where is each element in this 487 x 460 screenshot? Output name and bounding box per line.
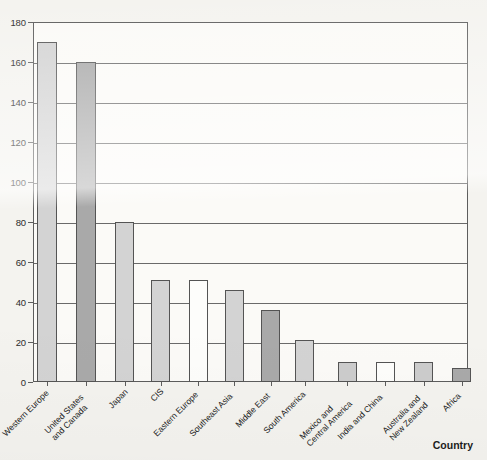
- bar-chart: 020406080100120140160180 Country Western…: [0, 0, 487, 460]
- y-tick-label-20: 20: [16, 337, 26, 348]
- bar: [225, 290, 244, 382]
- bar: [338, 362, 357, 382]
- bar: [414, 362, 433, 382]
- x-tick-3: [161, 382, 162, 386]
- bar: [115, 222, 134, 382]
- bar: [76, 62, 96, 382]
- x-tick-2: [125, 382, 126, 386]
- x-tick-1: [86, 382, 87, 386]
- y-tick-label-140: 140: [10, 97, 26, 108]
- x-tick-5: [234, 382, 235, 386]
- x-tick-8: [347, 382, 348, 386]
- y-tick-label-80: 80: [16, 217, 26, 228]
- bar: [261, 310, 280, 382]
- y-tick-label-180: 180: [10, 17, 26, 28]
- y-axis: 020406080100120140160180: [0, 0, 33, 404]
- bar: [151, 280, 170, 382]
- x-axis: Country Western EuropeUnited Statesand C…: [0, 382, 487, 460]
- x-axis-label: CIS: [149, 387, 166, 404]
- x-axis-label: Western Europe: [1, 389, 51, 439]
- x-axis-title: Country: [433, 439, 473, 451]
- y-tick-label-60: 60: [16, 257, 26, 268]
- bar: [376, 362, 395, 382]
- bar: [452, 368, 471, 382]
- bar: [37, 42, 57, 382]
- y-tick-label-40: 40: [16, 297, 26, 308]
- x-axis-label: United Statesand Canada: [43, 393, 93, 443]
- x-tick-4: [198, 382, 199, 386]
- bar: [295, 340, 314, 382]
- bar: [189, 280, 208, 382]
- x-axis-label: Australia andNew Zealand: [381, 393, 430, 442]
- x-tick-9: [385, 382, 386, 386]
- x-tick-6: [271, 382, 272, 386]
- x-axis-label: Mexico andCentral America: [298, 392, 354, 448]
- x-axis-label: Africa: [441, 392, 463, 414]
- x-tick-7: [305, 382, 306, 386]
- x-tick-10: [424, 382, 425, 386]
- y-tick-label-120: 120: [10, 137, 26, 148]
- y-tick-label-160: 160: [10, 57, 26, 68]
- y-tick-label-100: 100: [10, 177, 26, 188]
- x-tick-11: [462, 382, 463, 386]
- x-axis-label: Japan: [107, 387, 130, 410]
- bars-container: [33, 22, 468, 382]
- x-tick-0: [47, 382, 48, 386]
